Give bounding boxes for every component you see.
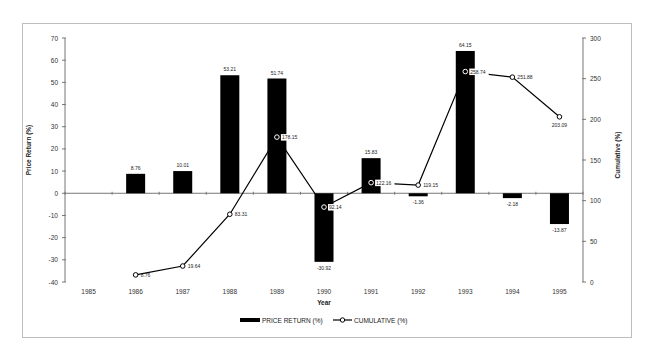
right-axis-tick-label: 200 [590,116,601,123]
left-axis-tick-label: -30 [49,256,59,263]
cumulative-marker [463,69,468,74]
x-axis-tick-label: 1985 [81,288,96,295]
right-axis-tick-label: 250 [590,75,601,82]
bar-price-return [550,193,569,224]
left-axis-tick-label: 10 [51,168,59,175]
bar-value-label: 53.21 [224,66,237,72]
cumulative-value-label: 8.76 [141,272,151,278]
left-axis-tick-label: -40 [49,279,59,286]
right-axis-tick-label: 100 [590,197,601,204]
left-axis-tick-label: 70 [51,35,59,42]
legend-bar-swatch [240,318,260,322]
x-axis-tick-label: 1991 [364,288,379,295]
cumulative-value-label: 122.16 [376,180,392,186]
bar-value-label: 15.83 [365,149,378,155]
x-axis-tick-label: 1995 [552,288,567,295]
x-axis-tick-label: 1992 [411,288,426,295]
left-axis-tick-label: 50 [51,79,59,86]
cumulative-value-label: 119.15 [423,182,438,188]
left-axis-title: Price Return (%) [25,125,33,176]
x-axis-tick-label: 1989 [270,288,285,295]
left-axis-tick-label: -10 [49,212,59,219]
legend-line-marker [340,318,344,322]
bar-price-return [126,174,145,193]
left-axis-tick-label: -20 [49,234,59,241]
bar-price-return [173,171,192,193]
cumulative-value-label: 178.15 [282,134,298,140]
right-axis-title: Cumulative (%) [614,132,622,179]
right-axis-tick-label: 300 [590,35,601,42]
bar-value-label: 8.76 [131,165,141,171]
right-axis-tick-label: 0 [590,279,594,286]
left-axis-tick-label: 30 [51,123,59,130]
legend-line-label: CUMULATIVE (%) [354,317,407,325]
left-axis-tick-label: 20 [51,145,59,152]
right-axis-tick-label: 150 [590,157,601,164]
x-axis-tick-label: 1986 [128,288,143,295]
bar-value-label: -2.18 [507,201,519,207]
cumulative-marker [322,205,327,210]
bar-value-label: -30.92 [317,265,331,271]
cumulative-line [136,72,560,275]
cumulative-marker [510,75,515,80]
cumulative-value-label: 251.88 [517,74,533,80]
bar-value-label: 51.74 [271,70,284,76]
cumulative-marker [180,264,185,269]
right-axis-tick-label: 50 [590,238,598,245]
left-axis-tick-label: 60 [51,57,59,64]
x-axis-tick-label: 1994 [505,288,520,295]
cumulative-marker [228,212,233,217]
bar-price-return [409,193,428,196]
x-axis-tick-label: 1990 [317,288,332,295]
x-axis-title: Year [317,299,331,306]
bar-value-label: 10.01 [176,162,189,168]
cumulative-marker [133,273,138,278]
bar-price-return [220,75,239,193]
bar-value-label: 64.15 [459,42,472,48]
left-axis-tick-label: 0 [54,190,58,197]
x-axis-tick-label: 1988 [223,288,238,295]
left-axis-tick-label: 40 [51,101,59,108]
cumulative-marker [557,115,562,120]
combo-chart: 706050403020100-10-20-30-40Price Return … [0,0,650,350]
bar-price-return [362,158,381,193]
x-axis-tick-label: 1987 [175,288,190,295]
bar-value-label: -13.87 [552,227,566,233]
cumulative-marker [416,183,421,188]
cumulative-marker [275,135,280,140]
cumulative-marker [369,180,374,185]
cumulative-value-label: 258.74 [470,69,486,75]
legend-bar-label: PRICE RETURN (%) [262,317,323,325]
cumulative-value-label: 203.09 [552,122,568,128]
x-axis-tick-label: 1993 [458,288,473,295]
bar-value-label: -1.36 [412,199,424,205]
cumulative-value-label: 83.31 [235,211,248,217]
bar-price-return [503,193,522,198]
cumulative-value-label: 19.64 [188,263,201,269]
cumulative-value-label: 92.14 [329,204,342,210]
